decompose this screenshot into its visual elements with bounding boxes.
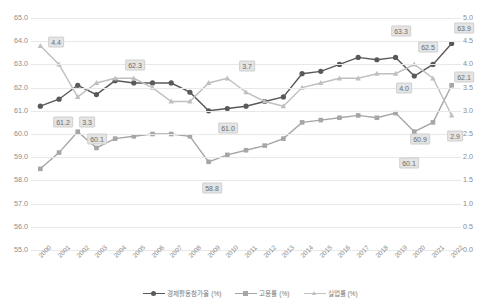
series-marker-1 (262, 143, 267, 148)
data-label: 4.4 (48, 37, 64, 48)
series-marker-1 (337, 115, 342, 120)
series-marker-0 (243, 104, 248, 109)
y-axis-right-tick: 0.5 (463, 223, 487, 231)
y-axis-left-tick: 55.0 (2, 246, 28, 254)
data-label: 61.0 (218, 123, 238, 134)
gridline (31, 111, 461, 112)
series-line-0 (40, 44, 451, 111)
series-marker-1 (281, 136, 286, 141)
gridline (31, 227, 461, 228)
series-marker-0 (412, 73, 417, 78)
series-marker-1 (206, 160, 211, 165)
data-label: 62.1 (454, 72, 474, 83)
series-marker-0 (356, 55, 361, 60)
y-axis-left: 65.064.063.062.061.060.059.058.057.056.0… (0, 18, 28, 250)
y-axis-right-tick: 1.5 (463, 176, 487, 184)
y-axis-left-tick: 60.0 (2, 130, 28, 138)
series-marker-1 (375, 115, 380, 120)
series-marker-0 (393, 55, 398, 60)
gridline (31, 18, 461, 19)
legend-label: 실업률 (%) (328, 288, 358, 298)
legend-swatch-icon (143, 289, 165, 297)
y-axis-left-tick: 63.0 (2, 60, 28, 68)
data-label: 62.3 (125, 60, 145, 71)
series-marker-2 (225, 75, 230, 80)
series-marker-1 (113, 136, 118, 141)
series-marker-2 (38, 43, 43, 48)
y-axis-left-tick: 62.0 (2, 84, 28, 92)
y-axis-right-tick: 0.0 (463, 246, 487, 254)
data-label: 3.7 (239, 61, 255, 72)
y-axis-right-tick: 4.5 (463, 37, 487, 45)
y-axis-right-tick: 4.0 (463, 60, 487, 68)
data-label: 62.5 (418, 42, 438, 53)
series-marker-1 (94, 146, 99, 151)
series-marker-1 (431, 120, 436, 125)
legend-label: 경제활동참가율 (%) (167, 288, 221, 298)
gridline (31, 157, 461, 158)
y-axis-right: 5.04.54.03.53.02.52.01.51.00.50.0 (463, 18, 493, 250)
chart-container: 65.064.063.062.061.060.059.058.057.056.0… (0, 0, 501, 307)
gridline (31, 180, 461, 181)
y-axis-left-tick: 57.0 (2, 200, 28, 208)
legend-swatch-icon (235, 289, 257, 297)
legend-label: 고용률 (%) (259, 288, 289, 298)
series-marker-1 (318, 118, 323, 123)
series-marker-0 (318, 69, 323, 74)
series-marker-0 (299, 71, 304, 76)
series-marker-0 (281, 94, 286, 99)
series-marker-0 (131, 80, 136, 85)
series-marker-2 (449, 113, 454, 118)
legend-swatch-icon (304, 289, 326, 297)
data-label: 61.2 (53, 117, 73, 128)
y-axis-left-tick: 59.0 (2, 153, 28, 161)
data-label: 60.1 (87, 134, 107, 145)
data-label: 2.9 (447, 131, 463, 142)
series-marker-0 (94, 92, 99, 97)
y-axis-right-tick: 5.0 (463, 14, 487, 22)
data-label: 58.8 (202, 183, 222, 194)
legend-item-0[interactable]: 경제활동참가율 (%) (143, 288, 221, 298)
series-marker-1 (57, 150, 62, 155)
data-label: 3.3 (79, 117, 95, 128)
series-marker-1 (356, 113, 361, 118)
legend-item-1[interactable]: 고용률 (%) (235, 288, 289, 298)
series-marker-0 (38, 104, 43, 109)
series-marker-1 (244, 148, 249, 153)
gridline (31, 41, 461, 42)
series-marker-0 (169, 80, 174, 85)
series-marker-0 (56, 97, 61, 102)
y-axis-right-tick: 1.0 (463, 200, 487, 208)
y-axis-left-tick: 56.0 (2, 223, 28, 231)
series-marker-1 (38, 167, 43, 172)
y-axis-right-tick: 3.0 (463, 107, 487, 115)
legend-item-2[interactable]: 실업률 (%) (304, 288, 358, 298)
y-axis-right-tick: 3.5 (463, 84, 487, 92)
series-marker-0 (187, 90, 192, 95)
data-label: 63.3 (391, 26, 411, 37)
data-label: 60.1 (399, 158, 419, 169)
series-marker-1 (300, 120, 305, 125)
y-axis-left-tick: 61.0 (2, 107, 28, 115)
y-axis-left-tick: 64.0 (2, 37, 28, 45)
chart-legend: 경제활동참가율 (%)고용률 (%)실업률 (%) (0, 286, 501, 300)
y-axis-right-tick: 2.0 (463, 153, 487, 161)
y-axis-right-tick: 2.5 (463, 130, 487, 138)
x-axis-labels: 2000200120022003200420052006200720082009… (31, 252, 461, 286)
data-label: 60.9 (410, 134, 430, 145)
gridline (31, 204, 461, 205)
y-axis-left-tick: 65.0 (2, 14, 28, 22)
y-axis-left-tick: 58.0 (2, 176, 28, 184)
data-label: 63.9 (454, 23, 474, 34)
data-label: 4.0 (396, 83, 412, 94)
series-marker-0 (374, 57, 379, 62)
